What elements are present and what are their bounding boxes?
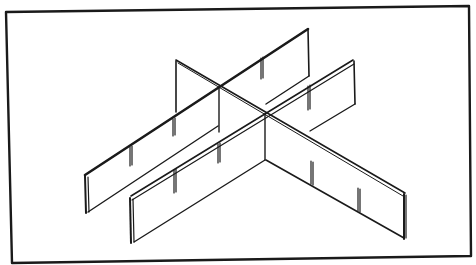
diagram-canvas: Isometric line drawing of interlocking s… [0,0,476,265]
divider-drawing [0,0,476,265]
